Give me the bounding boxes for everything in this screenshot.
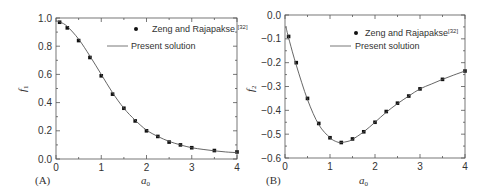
x-tick-label: 4 bbox=[234, 162, 240, 173]
y-tick-label: 0.6 bbox=[38, 69, 52, 80]
figure: 012340.00.20.40.60.81.0 Zeng and Rajapak… bbox=[0, 0, 487, 194]
y-tick-label: 0.4 bbox=[38, 97, 52, 108]
legend-label-solution: Present solution bbox=[131, 41, 196, 51]
x-tick-label: 2 bbox=[144, 162, 150, 173]
x-tick-label: 0 bbox=[53, 162, 59, 173]
x-tick-label: 1 bbox=[98, 162, 104, 173]
plot-frame bbox=[56, 18, 237, 159]
y-tick-label: −0.6 bbox=[261, 153, 281, 164]
x-tick-label: 0 bbox=[282, 161, 288, 172]
panel-label: (B) bbox=[266, 174, 281, 187]
axes: 012340.00.20.40.60.81.0 bbox=[38, 13, 240, 174]
panel-label: (A) bbox=[35, 174, 51, 187]
x-tick-label: 4 bbox=[462, 161, 468, 172]
y-tick-label: −0.5 bbox=[261, 129, 281, 140]
y-tick-label: −0.2 bbox=[261, 57, 281, 68]
y-tick-label: 0.0 bbox=[267, 10, 281, 21]
x-axis-title: a0 bbox=[141, 174, 151, 188]
y-axis-title: f1 bbox=[16, 85, 30, 92]
legend: Zeng and Rajapakse [32] Present solution bbox=[107, 24, 248, 51]
y-tick-label: 0.8 bbox=[38, 41, 52, 52]
legend-label-data: Zeng and Rajapakse[32] bbox=[365, 28, 458, 38]
legend-label-data: Zeng and Rajapakse [32] bbox=[152, 24, 248, 34]
legend-marker-icon bbox=[354, 31, 358, 35]
x-tick-label: 1 bbox=[327, 161, 333, 172]
chart-panel-a: 012340.00.20.40.60.81.0 Zeng and Rajapak… bbox=[16, 13, 248, 189]
x-tick-label: 3 bbox=[189, 162, 195, 173]
y-tick-label: 1.0 bbox=[38, 13, 52, 24]
y-tick-label: −0.4 bbox=[261, 105, 281, 116]
legend-label-solution: Present solution bbox=[355, 41, 420, 51]
x-tick-label: 2 bbox=[372, 161, 378, 172]
y-tick-label: 0.0 bbox=[38, 154, 52, 165]
x-tick-label: 3 bbox=[417, 161, 423, 172]
legend-marker-icon bbox=[134, 27, 138, 31]
y-tick-label: 0.2 bbox=[38, 125, 52, 136]
y-axis-title: f2 bbox=[244, 85, 258, 92]
y-tick-label: −0.3 bbox=[261, 81, 281, 92]
x-axis-title: a0 bbox=[359, 174, 369, 188]
y-tick-label: −0.1 bbox=[261, 33, 281, 44]
